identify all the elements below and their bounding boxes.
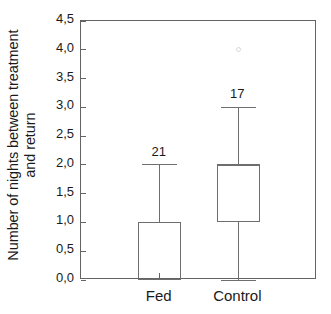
y-axis-tick-label: 4,5 — [40, 11, 74, 26]
y-axis-tick-label: 3,0 — [40, 97, 74, 112]
y-axis-tick-label: 2,0 — [40, 155, 74, 170]
whisker-lower — [238, 222, 239, 280]
x-axis-label-fed: Fed — [146, 287, 172, 304]
y-axis-tick — [81, 280, 86, 281]
x-axis-label-control: Control — [213, 287, 261, 304]
y-axis-tick-label: 1,0 — [40, 212, 74, 227]
y-axis-tick-label: 4,0 — [40, 40, 74, 55]
y-axis-tick-label: 3,5 — [40, 69, 74, 84]
outlier-point — [236, 47, 241, 52]
y-axis-title-line2: and return — [23, 29, 40, 260]
sample-size-label-control: 17 — [230, 86, 244, 101]
boxplot-figure: Number of nights between treatment and r… — [0, 0, 331, 314]
median-line — [217, 164, 260, 165]
box-iqr — [217, 165, 260, 223]
y-axis-title-line1: Number of nights between treatment — [6, 29, 22, 260]
whisker-cap-lower — [221, 280, 256, 281]
whisker-cap-upper — [221, 107, 256, 108]
y-axis-tick-label: 2,5 — [40, 126, 74, 141]
boxplot-control — [81, 21, 315, 278]
y-axis-tick-label: 0,0 — [40, 270, 74, 285]
whisker-upper — [238, 107, 239, 165]
y-axis-tick-label: 1,5 — [40, 184, 74, 199]
sample-size-label-fed: 21 — [151, 144, 165, 159]
y-axis-tick-label: 0,5 — [40, 241, 74, 256]
plot-area — [80, 20, 316, 279]
